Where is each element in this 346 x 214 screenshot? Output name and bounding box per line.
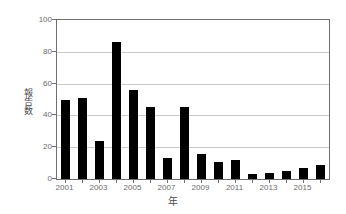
y-tick-label: 80 bbox=[16, 46, 52, 55]
gridline bbox=[57, 52, 329, 53]
bar bbox=[146, 107, 155, 179]
y-tick-label: 40 bbox=[16, 110, 52, 119]
bar bbox=[129, 90, 138, 179]
bar bbox=[316, 165, 325, 179]
x-tick-mark bbox=[320, 179, 321, 183]
y-tick-label: 100 bbox=[16, 15, 52, 24]
gridline bbox=[57, 115, 329, 116]
bar bbox=[61, 100, 70, 180]
bar bbox=[282, 171, 291, 179]
bar bbox=[197, 154, 206, 179]
bar bbox=[214, 162, 223, 179]
bar bbox=[95, 141, 104, 179]
plot-area bbox=[56, 19, 330, 180]
bar bbox=[265, 173, 274, 179]
bar-chart: 報告数 020406080100 20012003200520072009201… bbox=[0, 0, 346, 214]
bar bbox=[248, 174, 257, 179]
bar bbox=[231, 160, 240, 179]
y-tick-label: 0 bbox=[16, 174, 52, 183]
y-tick-label: 20 bbox=[16, 142, 52, 151]
bar bbox=[112, 42, 121, 179]
gridline bbox=[57, 84, 329, 85]
bar bbox=[299, 168, 308, 179]
bar bbox=[180, 107, 189, 179]
bar bbox=[163, 158, 172, 179]
bar bbox=[78, 98, 87, 179]
y-tick-label: 60 bbox=[16, 78, 52, 87]
x-tick-label: 2015 bbox=[283, 183, 323, 192]
x-axis-title: 年 bbox=[0, 193, 346, 208]
